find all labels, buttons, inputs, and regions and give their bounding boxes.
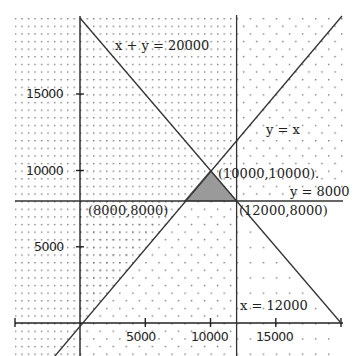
xtick-15000: 15000: [256, 329, 294, 344]
xtick-5000: 5000: [126, 329, 156, 344]
label-x-12000: x = 12000: [240, 298, 308, 313]
label-y-8000: y = 8000: [289, 184, 350, 199]
label-x-plus-y: x + y = 20000: [115, 38, 209, 53]
label-point-8000-8000: (8000,8000): [88, 203, 168, 218]
ytick-10000: 10000: [26, 163, 64, 178]
ytick-15000: 15000: [26, 86, 64, 101]
label-point-10000-10000: (10000,10000).: [218, 166, 319, 181]
label-y-equals-x: y = x: [265, 122, 301, 137]
ytick-5000: 5000: [34, 239, 64, 254]
linear-programming-graph: x + y = 20000 y = x (10000,10000). y = 8…: [0, 0, 355, 356]
xtick-10000: 10000: [191, 329, 229, 344]
label-point-12000-8000: (12000,8000): [239, 203, 328, 218]
